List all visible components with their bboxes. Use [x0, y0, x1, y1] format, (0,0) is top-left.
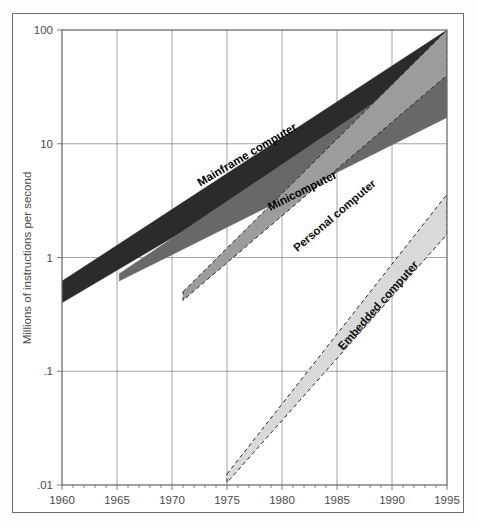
y-tick-label: 10 [40, 138, 53, 150]
x-tick-label: 1980 [269, 494, 295, 506]
x-tick-label: 1975 [214, 494, 240, 506]
chart-svg: Mainframe computerMinicomputerPersonal c… [0, 0, 478, 527]
y-tick-label: .01 [37, 479, 53, 491]
y-tick-label: 100 [34, 24, 53, 36]
x-tick-label: 1995 [434, 494, 460, 506]
y-tick-label: 1 [47, 252, 53, 264]
chart-figure: Mainframe computerMinicomputerPersonal c… [0, 0, 478, 527]
x-tick-label: 1990 [379, 494, 405, 506]
x-tick-label: 1960 [49, 494, 75, 506]
y-axis-title: Millions of instructions per second [21, 172, 33, 345]
x-tick-label: 1965 [104, 494, 130, 506]
y-tick-label: .1 [43, 365, 53, 377]
x-tick-label: 1970 [159, 494, 185, 506]
x-tick-label: 1985 [324, 494, 350, 506]
